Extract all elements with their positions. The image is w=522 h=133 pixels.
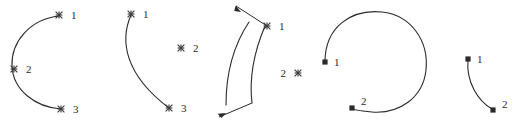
- shape-3-group: 1 2: [218, 6, 302, 119]
- x-marker-icon: [58, 106, 65, 113]
- square-marker-icon: [465, 56, 470, 61]
- point-label: 2: [26, 63, 32, 75]
- shape-1-group: 1 2 3: [11, 9, 79, 115]
- point-label: 3: [73, 103, 79, 115]
- x-marker-icon: [295, 70, 302, 77]
- point-label: 3: [181, 102, 187, 114]
- x-marker-icon: [56, 12, 63, 19]
- point-label: 2: [281, 67, 287, 79]
- square-marker-icon: [349, 105, 354, 110]
- point-label: 1: [279, 20, 285, 32]
- shape-3-point-2: 2: [281, 67, 302, 79]
- x-marker-icon: [11, 66, 18, 73]
- point-label: 2: [502, 98, 508, 110]
- shape-2-point-2: 2: [178, 42, 199, 54]
- shape-1-point-3: 3: [58, 103, 79, 115]
- shape-1-arc: [12, 16, 61, 109]
- shape-4-circle-arc: [325, 12, 426, 113]
- point-label: 2: [193, 42, 199, 54]
- shape-5-point-2: 2: [490, 98, 507, 113]
- shape-5-group: 1 2: [465, 53, 507, 113]
- point-label: 1: [143, 8, 149, 20]
- shape-3-arrow-line-top: [236, 6, 267, 26]
- x-marker-icon: [128, 11, 135, 18]
- shape-2-arc: [126, 15, 169, 108]
- shape-3-point-1: 1: [264, 20, 285, 32]
- figure-canvas: 1 2 3: [0, 0, 522, 133]
- x-marker-icon: [166, 105, 173, 112]
- shape-1-point-2: 2: [11, 63, 32, 75]
- shape-2-group: 1 2 3: [126, 8, 199, 114]
- shape-2-point-1: 1: [128, 8, 149, 20]
- point-label: 2: [361, 95, 367, 107]
- trajectory-figure: 1 2 3: [0, 0, 522, 133]
- x-marker-icon: [264, 23, 271, 30]
- point-label: 1: [477, 53, 483, 65]
- square-marker-icon: [490, 107, 495, 112]
- shape-3-arc-outer: [226, 22, 249, 105]
- shape-5-arc: [468, 60, 492, 109]
- shape-3-arc-inner: [251, 26, 265, 103]
- shape-4-group: 1 2: [322, 12, 426, 113]
- shape-4-point-2: 2: [349, 95, 366, 111]
- x-marker-icon: [178, 45, 185, 52]
- shape-2-point-3: 3: [166, 102, 187, 114]
- point-label: 1: [334, 56, 340, 68]
- point-label: 1: [71, 9, 77, 21]
- square-marker-icon: [322, 59, 327, 64]
- shape-1-point-1: 1: [56, 9, 77, 21]
